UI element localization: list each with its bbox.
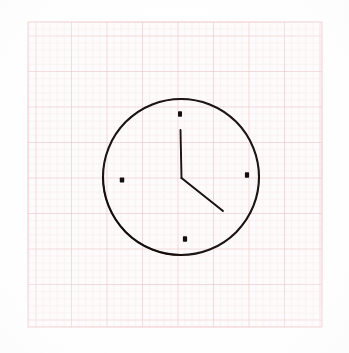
graph-paper [28, 22, 322, 327]
hour-marker-12 [178, 111, 182, 117]
minute-hand [181, 130, 182, 178]
hour-marker-6 [183, 236, 187, 242]
drawing-canvas: Hand-drawn analog clock on graph paper p… [0, 0, 349, 353]
paper-grid-lines [28, 22, 322, 327]
clock-drawing-svg [0, 0, 349, 353]
hour-marker-3 [245, 172, 249, 177]
hour-marker-9 [120, 178, 124, 183]
